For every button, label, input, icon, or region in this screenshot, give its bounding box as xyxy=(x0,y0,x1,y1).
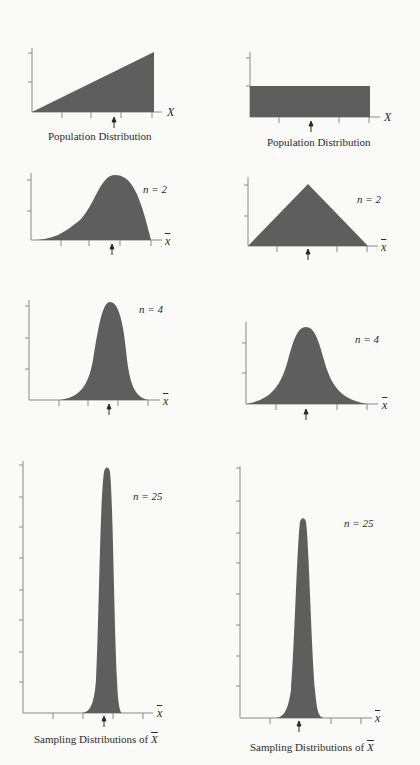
n-label: n = 2 xyxy=(143,183,167,195)
x-axis-label: x xyxy=(382,398,387,413)
curve-right-row2 xyxy=(248,184,368,246)
caption-right-population: Population Distribution xyxy=(267,136,371,148)
charts-canvas xyxy=(0,0,420,765)
caption-text: Sampling Distributions of xyxy=(34,733,151,745)
x-axis-label: x xyxy=(381,240,386,255)
caption-text: Sampling Distributions of xyxy=(250,741,367,753)
caption-right-sampling: Sampling Distributions of X xyxy=(250,741,374,753)
curve-left-row4 xyxy=(82,468,122,714)
x-axis-label: x xyxy=(157,706,162,721)
n-label: n = 2 xyxy=(357,193,381,205)
curve-left-row2 xyxy=(31,175,151,240)
caption-left-population: Population Distribution xyxy=(48,130,152,142)
curve-right-row4 xyxy=(276,518,324,718)
curve-right-row3 xyxy=(246,327,368,404)
x-axis-label: x xyxy=(375,711,380,726)
curve-left-row3 xyxy=(59,302,149,400)
n-label: n = 25 xyxy=(133,490,162,502)
curve-right-row1 xyxy=(250,86,370,117)
n-label: n = 25 xyxy=(344,517,373,529)
x-axis-label: x xyxy=(165,234,170,249)
x-bar-symbol: X xyxy=(367,741,374,753)
n-label: n = 4 xyxy=(139,303,163,315)
x-bar-symbol: X xyxy=(151,733,158,745)
caption-left-sampling: Sampling Distributions of X xyxy=(34,733,158,745)
x-axis-label: X xyxy=(167,105,174,120)
x-axis-label: x xyxy=(163,394,168,409)
n-label: n = 4 xyxy=(355,333,379,345)
curve-left-row1 xyxy=(32,52,154,112)
x-axis-label: X xyxy=(384,110,391,125)
